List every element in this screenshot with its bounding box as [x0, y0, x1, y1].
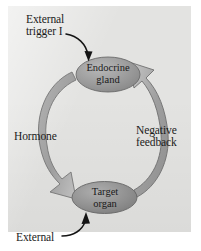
- external-trigger-arrow: [66, 34, 93, 62]
- external-arrow: [62, 212, 90, 236]
- node-target-organ: [72, 182, 137, 214]
- node-endocrine-gland: [76, 57, 140, 92]
- label-external: External: [16, 231, 54, 243]
- diagram-page: External trigger I Hormone Negative feed…: [0, 0, 201, 251]
- label-hormone: Hormone: [14, 130, 57, 142]
- label-negative-feedback: Negative feedback: [136, 124, 177, 149]
- label-external-trigger: External trigger I: [26, 13, 64, 38]
